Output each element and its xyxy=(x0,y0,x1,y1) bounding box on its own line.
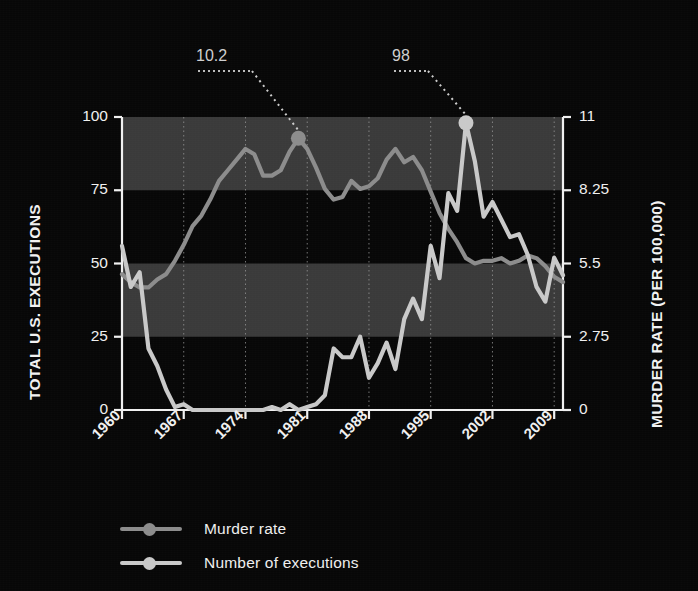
legend-item-executions[interactable]: Number of executions xyxy=(120,546,359,580)
y-axis-right-title: MURDER RATE (PER 100,000) xyxy=(648,200,666,428)
executions-peak-callout: 98 xyxy=(392,47,410,65)
y2-tick-5.5: 5.5 xyxy=(579,254,601,272)
y-tick-100: 100 xyxy=(82,107,108,125)
legend-label-executions: Number of executions xyxy=(204,554,359,572)
y-axis-left-title: TOTAL U.S. EXECUTIONS xyxy=(26,204,44,400)
y2-tick-2.75: 2.75 xyxy=(579,327,609,345)
y2-tick-0: 0 xyxy=(579,400,588,418)
legend-label-murder-rate: Murder rate xyxy=(204,520,286,538)
y2-tick-11: 11 xyxy=(579,107,595,125)
chart-legend: Murder rate Number of executions xyxy=(120,512,359,580)
y2-tick-8.25: 8.25 xyxy=(579,180,609,198)
chart-figure: TOTAL U.S. EXECUTIONS MURDER RATE (PER 1… xyxy=(0,0,698,591)
murder-rate-peak-callout: 10.2 xyxy=(196,47,227,65)
legend-swatch-executions xyxy=(120,556,182,570)
legend-swatch-murder-rate xyxy=(120,522,182,536)
y-tick-50: 50 xyxy=(91,254,108,272)
y-tick-25: 25 xyxy=(91,327,108,345)
legend-item-murder-rate[interactable]: Murder rate xyxy=(120,512,359,546)
chart-plot-area xyxy=(0,0,698,591)
y-tick-75: 75 xyxy=(91,180,108,198)
